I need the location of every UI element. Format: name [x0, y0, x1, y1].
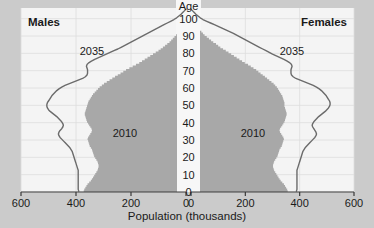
x-tick-label-left-200: 200: [122, 197, 140, 209]
age-tick-label-50: 50: [182, 99, 194, 111]
x-tick-label-right-200: 200: [236, 197, 254, 209]
x-tick-label-left-400: 400: [67, 197, 85, 209]
age-tick-label-90: 90: [182, 30, 194, 42]
annotation-2035-females: 2035: [280, 45, 304, 57]
population-axis-title: Population (thousands): [128, 210, 246, 222]
age-tick-label-30: 30: [182, 134, 194, 146]
age-tick-label-60: 60: [182, 82, 194, 94]
age-tick-label-70: 70: [182, 65, 194, 77]
age-axis-title: Age: [179, 0, 199, 12]
annotation-2035-males: 2035: [80, 45, 104, 57]
females-label: Females: [301, 16, 347, 28]
age-tick-label-20: 20: [182, 151, 194, 163]
age-tick-label-80: 80: [182, 47, 194, 59]
age-tick-label-100: 100: [179, 13, 197, 25]
x-tick-label-left-600: 600: [12, 197, 30, 209]
x-tick-label-right-0: 0: [188, 197, 194, 209]
males-label: Males: [28, 16, 60, 28]
age-tick-label-40: 40: [182, 117, 194, 129]
age-tick-label-0: 0: [185, 186, 191, 198]
x-tick-label-right-600: 600: [345, 197, 363, 209]
population-pyramid-figure: 6004002000020040060010090807060504030201…: [0, 0, 374, 228]
annotation-2010-males: 2010: [113, 127, 137, 139]
age-tick-label-10: 10: [182, 169, 194, 181]
annotation-2010-females: 2010: [241, 127, 265, 139]
x-tick-label-right-400: 400: [290, 197, 308, 209]
